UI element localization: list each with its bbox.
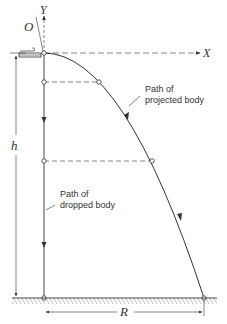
projected-leader	[129, 96, 140, 106]
down-arrow-icon	[42, 117, 47, 123]
path-arrow-icon	[177, 213, 182, 221]
diagram-canvas	[0, 0, 227, 324]
projectile-diagram: O Y X h R Path of projected body Path of…	[0, 0, 227, 324]
dropped-path-label: Path of dropped body	[60, 189, 115, 211]
dropped-leader	[46, 205, 55, 210]
y-axis-label: Y	[40, 4, 47, 16]
origin-label: O	[24, 20, 33, 33]
height-label: h	[11, 139, 18, 152]
x-axis-label: X	[203, 47, 210, 59]
time-markers	[44, 82, 152, 161]
dropped-body-path	[42, 53, 47, 298]
down-arrow-icon	[42, 242, 47, 248]
origin-leader	[36, 17, 43, 51]
range-label: R	[120, 305, 128, 318]
projected-path-label: Path of projected body	[145, 84, 204, 106]
height-dimension	[10, 53, 26, 296]
ground	[12, 298, 217, 304]
